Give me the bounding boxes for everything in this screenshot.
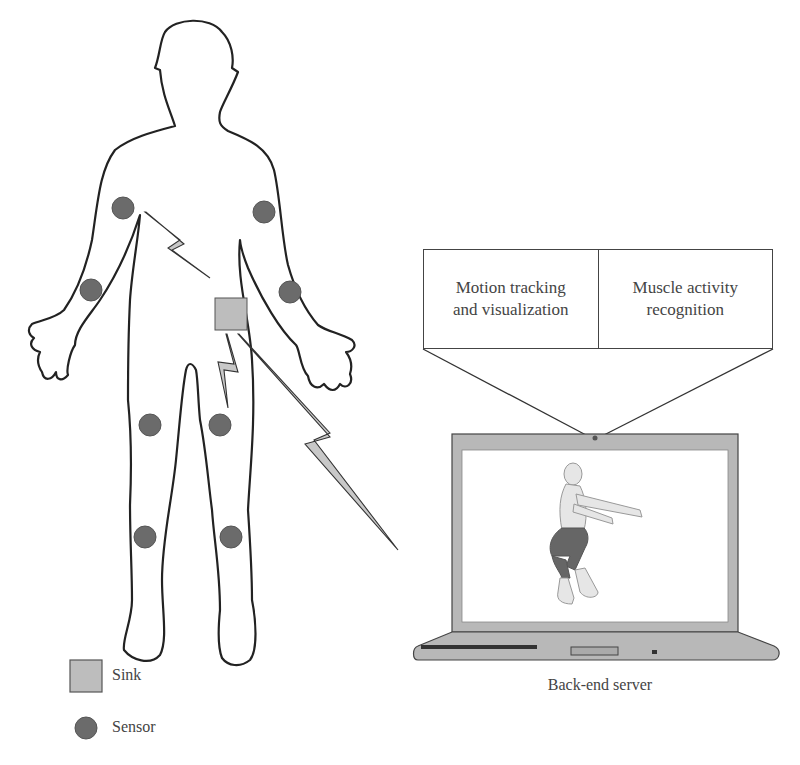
sensor-nodes (80, 197, 301, 548)
sensor-left-forearm (279, 281, 301, 303)
function-muscle-activity-line2: recognition (633, 299, 738, 321)
function-muscle-activity-line1: Muscle activity (633, 277, 738, 299)
backend-functions-box: Motion tracking and visualization Muscle… (423, 249, 773, 349)
function-motion-tracking-line1: Motion tracking (453, 277, 569, 299)
sensor-right-shin (134, 526, 156, 548)
legend-sensor-symbol (75, 717, 97, 739)
laptop-touchpad (571, 647, 618, 655)
human-body-outline (29, 21, 355, 665)
laptop-vent (421, 645, 537, 649)
callout-line-right (604, 349, 773, 435)
sensor-left-shin (220, 526, 242, 548)
laptop-led (652, 650, 657, 654)
function-muscle-activity: Muscle activity recognition (598, 250, 773, 348)
diagram-canvas (0, 0, 800, 765)
laptop-icon (414, 434, 780, 660)
wireless-link-icons (145, 212, 398, 550)
sink-node (215, 298, 247, 330)
webcam-icon (593, 436, 598, 441)
sensor-right-thigh (139, 414, 161, 436)
callout-line-left (423, 349, 586, 435)
sensor-right-forearm (80, 279, 102, 301)
sensor-left-thigh (209, 414, 231, 436)
lightning-bolt-icon (218, 334, 238, 408)
legend-sink-symbol (70, 660, 102, 692)
lightning-bolt-icon (238, 334, 398, 550)
legend-sensor-label: Sensor (112, 718, 156, 736)
function-motion-tracking: Motion tracking and visualization (424, 250, 598, 348)
function-motion-tracking-line2: and visualization (453, 299, 569, 321)
sensor-left-upper-arm (253, 201, 275, 223)
legend-sink-label: Sink (112, 666, 141, 684)
lightning-bolt-icon (145, 212, 210, 278)
sensor-right-upper-arm (112, 197, 134, 219)
server-caption: Back-end server (500, 676, 700, 694)
